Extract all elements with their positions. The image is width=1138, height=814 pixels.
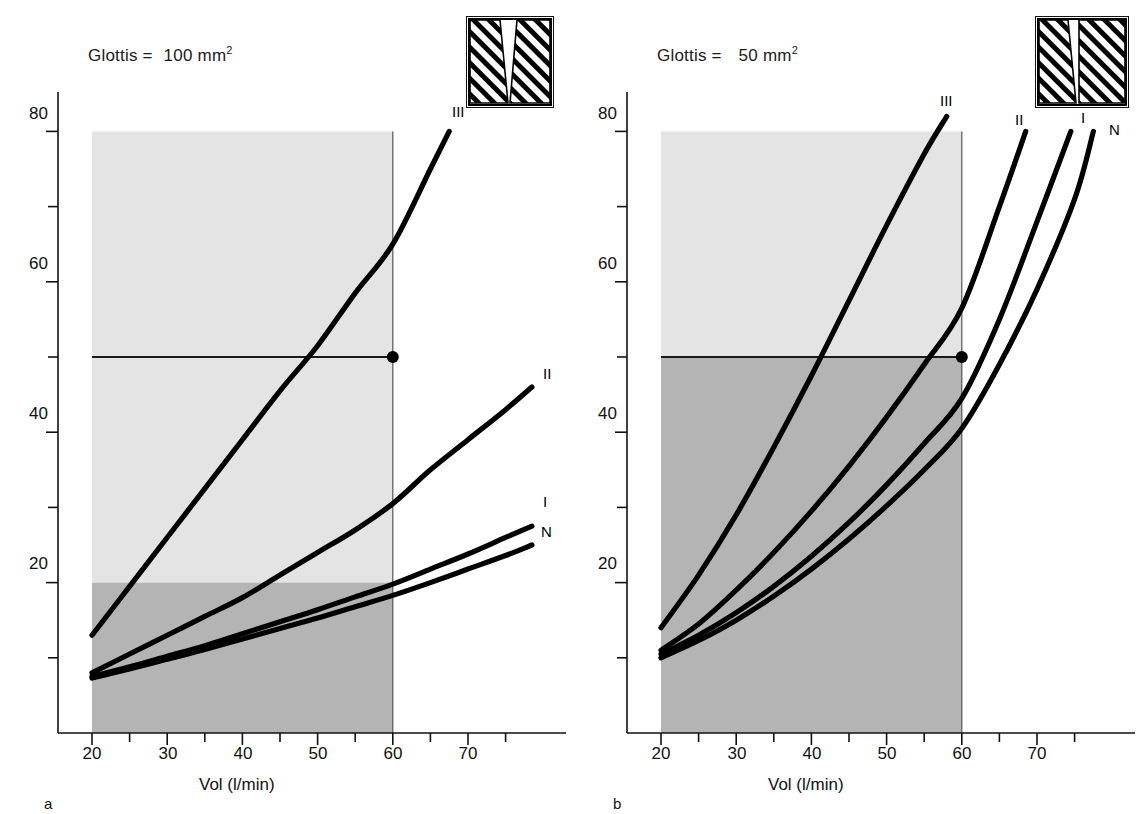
- xtick-a-70: 70: [448, 745, 488, 762]
- ytick-a-20: 20: [4, 555, 48, 572]
- ytick-b-40: 40: [573, 405, 617, 422]
- curve-label-b-N: N: [1109, 122, 1120, 137]
- xaxis-label-a: Vol (l/min): [199, 775, 275, 795]
- panel-a-title-exponent: 2: [226, 44, 232, 56]
- panel-b-plot: [569, 0, 1138, 814]
- xtick-a-50: 50: [298, 745, 338, 762]
- ytick-a-80: 80: [4, 105, 48, 122]
- ytick-a-40: 40: [4, 405, 48, 422]
- xtick-b-60: 60: [942, 745, 982, 762]
- xtick-b-50: 50: [867, 745, 907, 762]
- ytick-a-60: 60: [4, 255, 48, 272]
- xtick-a-20: 20: [72, 745, 112, 762]
- band-dark-band: [92, 583, 393, 733]
- panel-a-plot: [0, 0, 569, 814]
- xtick-a-40: 40: [223, 745, 263, 762]
- xtick-b-20: 20: [641, 745, 681, 762]
- glottis-aperture-wide-triangular-icon: [466, 16, 554, 108]
- ytick-b-20: 20: [573, 555, 617, 572]
- panel-b-title-exponent: 2: [792, 44, 798, 56]
- xtick-a-60: 60: [373, 745, 413, 762]
- ytick-b-60: 60: [573, 255, 617, 272]
- panel-b-title-unit: mm: [763, 46, 792, 65]
- ytick-b-80: 80: [573, 105, 617, 122]
- curve-label-a-I: I: [543, 494, 547, 509]
- band-dark-band: [661, 357, 962, 733]
- curve-label-b-I: I: [1081, 110, 1085, 125]
- marker-point: [387, 351, 399, 363]
- panel-a: Glottis = 100mm2 III II I N 80 60 40: [0, 0, 569, 814]
- xtick-b-40: 40: [792, 745, 832, 762]
- panel-label-a: a: [44, 795, 52, 812]
- panel-a-title: Glottis = 100mm2: [88, 44, 233, 66]
- panel-b-title-prefix: Glottis =: [657, 46, 722, 65]
- panel-b-title-value: 50: [739, 46, 758, 65]
- panel-b: Glottis = 50mm2 III II I N 80 60 40 2: [569, 0, 1138, 814]
- curve-label-b-II: II: [1015, 112, 1023, 127]
- figure-root: Glottis = 100mm2 III II I N 80 60 40: [0, 0, 1138, 814]
- xtick-b-70: 70: [1017, 745, 1057, 762]
- glottis-aperture-narrow-slit-icon: [1035, 16, 1129, 108]
- xaxis-label-b: Vol (l/min): [768, 775, 844, 795]
- panel-a-title-unit: mm: [198, 46, 227, 65]
- marker-point: [956, 351, 968, 363]
- curve-label-a-III: III: [452, 104, 465, 119]
- curve-label-a-II: II: [543, 366, 551, 381]
- panel-b-title: Glottis = 50mm2: [657, 44, 798, 66]
- xtick-b-30: 30: [717, 745, 757, 762]
- xtick-a-30: 30: [148, 745, 188, 762]
- curve-label-b-III: III: [940, 93, 953, 108]
- curve-label-a-N: N: [541, 524, 552, 539]
- panel-a-title-prefix: Glottis =: [88, 46, 153, 65]
- panel-a-title-value: 100: [164, 46, 193, 65]
- panel-label-b: b: [613, 795, 621, 812]
